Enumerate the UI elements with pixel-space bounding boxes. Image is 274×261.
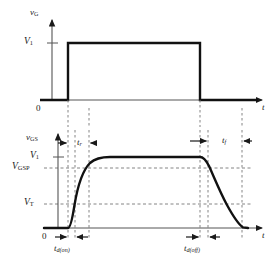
gate-drive-pulse-trace (40, 43, 258, 100)
top-zero-label: 0 (36, 104, 41, 113)
top-panel (40, 20, 262, 127)
interval-label-tr: tr (77, 138, 82, 147)
interval-label-td-on: td(on) (54, 244, 70, 253)
top-y-axis-label: vG (30, 8, 38, 17)
interval-label-tf: tf (222, 136, 226, 145)
bottom-level-vgsp-label: VGSP (12, 162, 30, 172)
bottom-level-vt-label: VT (24, 198, 34, 208)
top-level-v1-label: V1 (24, 37, 33, 47)
top-x-axis-label: t (262, 103, 265, 112)
waveform-figure: vG V1 0 t vGS V1 VGSP VT 0 t tr tf td(on… (0, 0, 274, 261)
bottom-y-axis-label: vGS (26, 133, 38, 142)
bottom-x-axis-label: t (262, 231, 265, 240)
bottom-zero-label: 0 (42, 232, 47, 241)
waveform-canvas (0, 0, 274, 261)
bottom-level-v1-label: V1 (30, 151, 39, 161)
interval-label-td-off: td(off) (184, 244, 200, 253)
